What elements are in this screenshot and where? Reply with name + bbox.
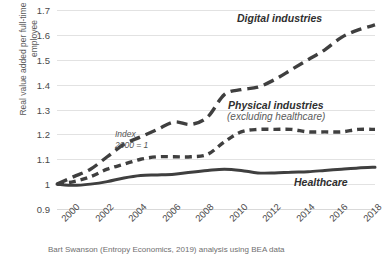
index-annotation: Index 2000 = 1 [115, 129, 148, 151]
series-label-physical-sub: (excluding healthcare) [227, 111, 325, 122]
y-tick-1-7: 1.7 [37, 5, 50, 16]
y-tick-1-3: 1.3 [37, 104, 50, 115]
y-tick-1-2: 1.2 [37, 129, 50, 140]
y-tick-1-0: 1 [45, 179, 50, 190]
y-axis-ticks: 1.7 1.6 1.5 1.4 1.3 1.2 1.1 1 0.9 [0, 10, 53, 209]
y-tick-0-9: 0.9 [37, 204, 50, 215]
index-annotation-line1: Index [115, 129, 148, 140]
line-digital-industries [57, 25, 375, 184]
y-tick-1-5: 1.5 [37, 54, 50, 65]
y-tick-1-6: 1.6 [37, 29, 50, 40]
source-caption: Bart Swanson (Entropy Economics, 2019) a… [48, 245, 285, 254]
index-annotation-line2: 2000 = 1 [115, 140, 148, 151]
y-tick-1-4: 1.4 [37, 79, 50, 90]
y-tick-1-1: 1.1 [37, 154, 50, 165]
series-label-digital: Digital industries [237, 12, 322, 24]
series-label-healthcare: Healthcare [294, 176, 348, 188]
series-label-physical: Physical industries [228, 99, 324, 111]
